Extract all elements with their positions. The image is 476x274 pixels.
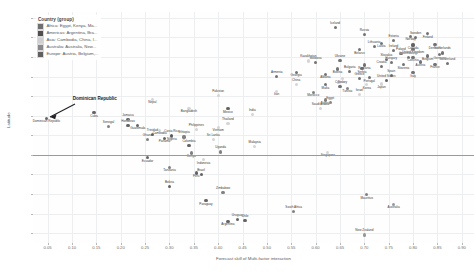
point-label: Nepal (148, 102, 156, 105)
point-label: Tanzania (163, 170, 175, 173)
point-label: Paraguay (199, 203, 212, 206)
scatter-point (373, 45, 376, 48)
scatter-point (358, 93, 361, 96)
legend-title: Country (group) (38, 17, 98, 22)
y-tick-mark (31, 57, 33, 58)
point-label: Sweden (410, 32, 421, 35)
point-label: Bosnia (333, 71, 342, 74)
scatter-point (358, 77, 361, 80)
point-label: Malta (322, 87, 330, 90)
x-tick-mark (389, 243, 390, 245)
point-label: Japan (377, 86, 385, 89)
x-tick-mark (291, 243, 292, 245)
legend-item-label: Asia: Cambodia, China, I... (46, 38, 97, 42)
y-tick-mark (31, 18, 33, 19)
y-tick-mark (31, 37, 33, 38)
x-tick-label: 0.90 (447, 246, 476, 250)
y-tick-mark (31, 174, 33, 175)
scatter-point (236, 218, 239, 221)
point-label: Ethiopia (178, 132, 189, 135)
scatter-point (385, 79, 388, 82)
point-label: Uruguay (232, 214, 244, 217)
scatter-point (338, 85, 341, 88)
scatter-point (390, 61, 393, 64)
gridline-vertical (121, 12, 122, 243)
gridline-vertical (364, 12, 365, 243)
point-label: Moldova (310, 58, 322, 61)
point-label: Indonesia (197, 162, 210, 165)
point-label: Pakistan (212, 90, 224, 93)
x-axis-label: Forecast skill of Multi-factor interacti… (33, 256, 474, 261)
legend-item-0[interactable]: Africa: Egypt, Kenya, Ma... (37, 23, 98, 30)
legend-item-4[interactable]: Europe: Austria, Belgium,... (37, 51, 98, 58)
legend-item-label: Europe: Austria, Belgium,... (46, 52, 98, 56)
point-label: Norway (405, 39, 416, 42)
point-label: Malaysia (249, 142, 261, 145)
scatter-point (187, 144, 190, 147)
scatter-point (295, 83, 298, 86)
point-label: Israel (356, 89, 364, 92)
point-label: South Africa (285, 207, 302, 210)
legend: Country (group) Africa: Egypt, Kenya, Ma… (36, 15, 101, 60)
point-label: Jamaica (122, 114, 134, 117)
legend-rows: Africa: Egypt, Kenya, Ma...Americas: Arg… (37, 23, 98, 58)
point-label: Guatemala (130, 128, 145, 131)
point-label: United States (377, 75, 396, 78)
point-label: Senegal (103, 121, 114, 124)
point-label: Uganda (215, 147, 226, 150)
gridline-horizontal (33, 233, 474, 234)
point-label: Austria (416, 64, 426, 67)
legend-item-2[interactable]: Asia: Cambodia, China, I... (37, 37, 98, 44)
scatter-point (392, 49, 395, 52)
scatter-point (363, 233, 366, 236)
x-tick-mark (462, 243, 463, 245)
point-label: Saudi Arabia (312, 103, 330, 106)
x-tick-mark (169, 243, 170, 245)
point-label: Thailand (222, 119, 234, 122)
point-label: Iceland (330, 23, 340, 26)
legend-item-3[interactable]: Australia: Australia, New... (37, 44, 98, 51)
y-tick-mark (31, 155, 33, 156)
point-label: Korea (363, 87, 371, 90)
legend-item-label: Africa: Egypt, Kenya, Ma... (46, 24, 97, 28)
gridline-vertical (340, 12, 341, 243)
x-tick-mark (96, 243, 97, 245)
point-label: France (430, 67, 440, 70)
x-tick-mark (243, 243, 244, 245)
point-label: Croatia (376, 61, 386, 64)
gridline-vertical (169, 12, 170, 243)
point-label: India (249, 109, 256, 112)
point-label: Zimbabwe (216, 187, 230, 190)
legend-item-1[interactable]: Americas: Argentina, Bra... (37, 30, 98, 37)
point-label: Finland (423, 36, 433, 39)
gridline-vertical (267, 12, 268, 243)
point-label: Lithuania (368, 42, 381, 45)
point-label: Mexico (223, 111, 233, 114)
point-label: Albania (320, 77, 330, 80)
scatter-point (107, 125, 110, 128)
point-label: Singapore (321, 155, 335, 158)
x-tick-mark (267, 243, 268, 245)
x-tick-mark (218, 243, 219, 245)
y-axis-label: Latitude (6, 112, 11, 128)
scatter-point (146, 138, 149, 141)
scatter-point (334, 26, 337, 29)
point-label: Portugal (363, 80, 375, 83)
legend-item-label: Americas: Argentina, Bra... (46, 31, 97, 35)
point-label: Belgium (422, 58, 433, 61)
x-tick-mark (413, 243, 414, 245)
scatter-point (338, 59, 341, 62)
point-label: Latvia (377, 46, 385, 49)
point-label: Peru (193, 175, 200, 178)
point-label: Mauritius (361, 197, 374, 200)
y-tick-mark (31, 135, 33, 136)
scatter-point (182, 135, 185, 138)
y-tick-mark (31, 77, 33, 78)
y-tick-mark (31, 116, 33, 117)
scatter-point (217, 94, 220, 97)
scatter-point (212, 138, 215, 141)
annotation-arrow (41, 100, 81, 122)
point-label: Philippines (189, 125, 204, 128)
scatter-point (446, 62, 449, 65)
point-label: Argentina (221, 224, 234, 227)
